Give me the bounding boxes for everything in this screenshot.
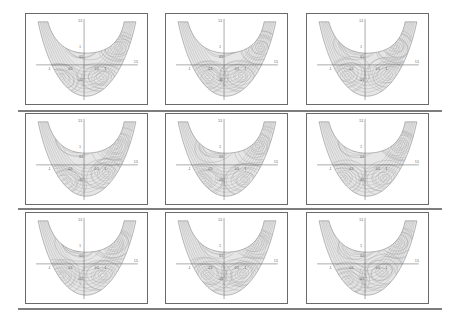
tick-label: 1.5 [274,160,278,164]
tick-label: 0.5 [95,67,99,71]
tick-label: 1 [79,244,81,248]
tick-label: -0.5 [78,178,83,182]
contour-plot-panel-r3c1: -1 -0.5 0.5 1 1.5 1.5 1 0.5 -0.5 [25,212,148,304]
tick-label: -1 [329,266,332,270]
tick-label: 1.5 [218,218,222,222]
tick-label: -1 [48,67,51,71]
contour-plot-panel-r2c2: -1 -0.5 0.5 1 1.5 1.5 1 0.5 -0.5 [165,113,288,205]
parabolic-region [319,122,417,196]
tick-label: 1.5 [274,60,278,64]
tick-label: -0.5 [359,78,364,82]
tick-label: -0.5 [67,67,72,71]
tick-label: -1 [188,167,191,171]
tick-label: 1 [219,145,221,149]
tick-label: 0.5 [79,55,83,59]
parabolic-region [178,22,276,96]
tick-label: 1.5 [218,19,222,23]
tick-label: 0.5 [376,167,380,171]
tick-label: 0.5 [360,155,364,159]
tick-label: 1.5 [134,160,138,164]
tick-label: 1.5 [359,119,363,123]
contour-plot-panel-r1c2: -1 -0.5 0.5 1 1.5 1.5 1 0.5 -0.5 [165,13,288,105]
tick-label: 1 [360,244,362,248]
tick-label: 1 [79,145,81,149]
tick-label: -0.5 [78,78,83,82]
tick-label: -1 [329,67,332,71]
contour-plot-panel-r3c2: -1 -0.5 0.5 1 1.5 1.5 1 0.5 -0.5 [165,212,288,304]
contour-plot-panel-r1c1: -1 -0.5 0.5 1 1.5 1.5 1 0.5 -0.5 [25,13,148,105]
tick-label: 1 [219,45,221,49]
tick-label: -1 [188,266,191,270]
tick-label: 1 [360,45,362,49]
tick-label: 0.5 [219,155,223,159]
row-separator-2 [18,208,442,210]
row-separator-3 [18,308,442,310]
tick-label: 0.5 [79,254,83,258]
tick-label: 1.5 [78,218,82,222]
parabolic-region [319,22,417,96]
tick-label: 0.5 [360,55,364,59]
tick-label: 1 [79,45,81,49]
tick-label: -0.5 [78,277,83,281]
tick-label: -0.5 [67,266,72,270]
tick-label: -0.5 [218,277,223,281]
tick-label: 1.5 [415,259,419,263]
tick-label: 1.5 [274,259,278,263]
tick-label: -1 [48,167,51,171]
tick-label: -1 [48,266,51,270]
tick-label: 0.5 [235,167,239,171]
tick-label: 0.5 [219,55,223,59]
tick-label: -0.5 [67,167,72,171]
tick-label: -0.5 [359,178,364,182]
tick-label: -0.5 [218,178,223,182]
tick-label: 0.5 [376,67,380,71]
tick-label: 0.5 [79,155,83,159]
tick-label: 1.5 [134,259,138,263]
tick-label: 0.5 [360,254,364,258]
tick-label: 1.5 [78,119,82,123]
tick-label: 1 [219,244,221,248]
tick-label: 1 [360,145,362,149]
tick-label: 1.5 [415,160,419,164]
tick-label: -0.5 [207,67,212,71]
tick-label: 1.5 [359,19,363,23]
tick-label: 0.5 [219,254,223,258]
tick-label: -0.5 [348,67,353,71]
tick-label: 1.5 [359,218,363,222]
tick-label: 0.5 [235,266,239,270]
tick-label: -0.5 [207,266,212,270]
contour-plot-panel-r3c3: -1 -0.5 0.5 1 1.5 1.5 1 0.5 -0.5 [306,212,429,304]
tick-label: -0.5 [218,78,223,82]
tick-label: 0.5 [235,67,239,71]
tick-label: -1 [188,67,191,71]
tick-label: -1 [329,167,332,171]
contour-plot-panel-r2c3: -1 -0.5 0.5 1 1.5 1.5 1 0.5 -0.5 [306,113,429,205]
tick-label: 1.5 [134,60,138,64]
tick-label: 1.5 [78,19,82,23]
tick-label: -0.5 [359,277,364,281]
tick-label: 1.5 [415,60,419,64]
parabolic-region [178,221,276,295]
tick-label: -0.5 [207,167,212,171]
tick-label: 0.5 [376,266,380,270]
contour-plot-panel-r2c1: -1 -0.5 0.5 1 1.5 1.5 1 0.5 -0.5 [25,113,148,205]
tick-label: 0.5 [95,266,99,270]
tick-label: -0.5 [348,266,353,270]
tick-label: -0.5 [348,167,353,171]
parabolic-region [38,22,136,96]
tick-label: 0.5 [95,167,99,171]
row-separator-1 [18,110,442,112]
tick-label: 1.5 [218,119,222,123]
contour-plot-panel-r1c3: -1 -0.5 0.5 1 1.5 1.5 1 0.5 -0.5 [306,13,429,105]
